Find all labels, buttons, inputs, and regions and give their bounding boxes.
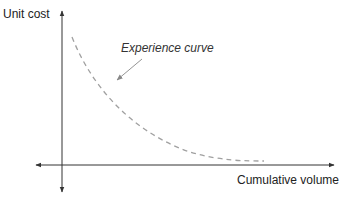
annotation-arrow-icon bbox=[117, 59, 142, 80]
curve-annotation: Experience curve bbox=[121, 41, 214, 55]
y-axis-label: Unit cost bbox=[3, 7, 50, 21]
experience-curve bbox=[72, 37, 264, 161]
x-axis-label: Cumulative volume bbox=[237, 173, 339, 187]
